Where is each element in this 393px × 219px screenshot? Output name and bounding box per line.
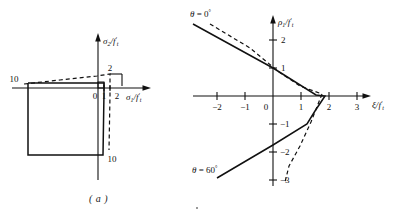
svg-text:ρ1/f′t: ρ1/f′t: [277, 17, 294, 28]
panel-b-y-axis-label: ρ1/f′t: [277, 17, 294, 28]
panel-b-tick-y--1: −1: [280, 119, 290, 129]
svg-text:ξ/f′t: ξ/f′t: [372, 100, 384, 111]
panel-b-tick-y-2: 2: [281, 35, 286, 45]
panel-b-tick-y--3: −3: [280, 175, 290, 185]
panel-b-tick-y-1: 1: [281, 63, 286, 73]
panel-b-x-axis-label: ξ/f′t: [372, 100, 384, 111]
svg-text:θ = 60°: θ = 60°: [192, 165, 218, 175]
panel-a-plot: 10 0 1 2 2 10 σ2/f′t σ1/f′t: [0, 0, 196, 219]
panel-b-tick-x--1: −1: [240, 102, 250, 112]
svg-text:θ = 0°: θ = 0°: [190, 9, 212, 19]
panel-a-y-axis: [95, 33, 101, 180]
panel-b-tick-x-1: 1: [299, 102, 304, 112]
panel-a-caption: ( a ): [89, 193, 108, 204]
panel-a-dashed-envelope: [24, 74, 110, 150]
panel-b-dashed-theta0: [210, 24, 322, 94]
panel-a-x-axis: [12, 85, 151, 91]
svg-text:σ1/f′t: σ1/f′t: [126, 92, 142, 103]
panel-b-dashed-theta60: [285, 94, 322, 182]
panel-a-y-axis-label: σ2/f′t: [103, 36, 119, 47]
page-artifact-dot: [196, 207, 198, 209]
panel-a-top-bracket: [110, 74, 122, 86]
panel-a-tick-2: 2: [115, 91, 120, 101]
figure-root: 10 0 1 2 2 10 σ2/f′t σ1/f′t ( a ): [0, 0, 393, 219]
panel-a-tick-1: 1: [102, 91, 107, 101]
panel-b-tick-x-2: 2: [327, 102, 332, 112]
panel-b-annotation-theta-0: θ = 0°: [190, 9, 212, 19]
panel-b-y-axis: [270, 15, 276, 186]
panel-a-tick-0: 0: [93, 91, 98, 101]
panel-a-label-top-2: 2: [108, 63, 113, 73]
panel-a: 10 0 1 2 2 10 σ2/f′t σ1/f′t ( a ): [0, 0, 196, 219]
panel-a-x-axis-label: σ1/f′t: [126, 92, 142, 103]
panel-b-annotation-theta-60: θ = 60°: [192, 165, 218, 175]
panel-b-x-axis: [193, 93, 371, 99]
panel-b-tick-y--2: −2: [280, 147, 290, 157]
panel-b-tick-x-3: 3: [355, 102, 360, 112]
panel-b: −2 −1 0 1 2 3 2 1 −1 −2 −3 ρ1/f′t ξ/f′t: [190, 0, 393, 219]
panel-a-label-bottom-10: 10: [108, 154, 118, 164]
panel-a-label-left-10: 10: [10, 74, 20, 84]
panel-b-tick-x-0: 0: [264, 102, 269, 112]
panel-b-tick-x--2: −2: [212, 102, 222, 112]
panel-b-solid-meridians: [193, 24, 325, 178]
panel-b-plot: −2 −1 0 1 2 3 2 1 −1 −2 −3 ρ1/f′t ξ/f′t: [190, 0, 393, 219]
svg-text:σ2/f′t: σ2/f′t: [103, 36, 119, 47]
